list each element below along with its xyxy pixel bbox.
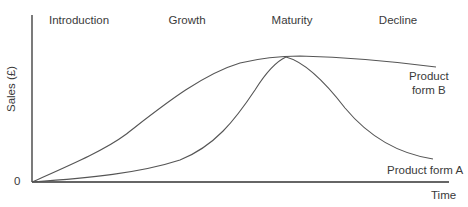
series-line-product-form-a: [32, 57, 433, 182]
stage-label-decline: Decline: [379, 14, 417, 28]
stage-label-introduction: Introduction: [49, 14, 109, 28]
origin-label: 0: [14, 175, 20, 189]
series-label-product-form-b: Product form B: [409, 70, 449, 98]
series-label-product-form-a: Product form A: [387, 164, 463, 178]
stage-label-maturity: Maturity: [272, 14, 313, 28]
series-label-b-line2: form B: [409, 84, 449, 98]
series-label-b-line1: Product: [409, 70, 449, 84]
y-axis-label: Sales (£): [5, 66, 19, 112]
x-axis-label: Time: [431, 189, 456, 203]
stage-label-growth: Growth: [168, 14, 205, 28]
product-life-cycle-chart: Introduction Growth Maturity Decline Sal…: [0, 0, 468, 207]
